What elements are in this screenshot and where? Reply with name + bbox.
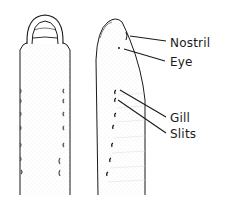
gill-label: Gill xyxy=(170,112,190,124)
eye-dot xyxy=(118,47,120,49)
slits-label: Slits xyxy=(170,128,196,140)
nostril-label: Nostril xyxy=(170,37,210,49)
dorsal-view xyxy=(20,15,70,195)
lateral-view xyxy=(96,19,145,195)
lamprey-illustration xyxy=(0,0,230,212)
eye-label: Eye xyxy=(170,56,193,68)
